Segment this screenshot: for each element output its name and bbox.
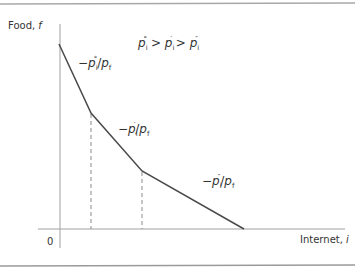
slope-label-1: −pi°/pf: [78, 56, 111, 70]
slope-label-2: −pi′/pf: [118, 122, 149, 136]
slope-label-3: −pi″/pf: [202, 174, 234, 188]
x-axis-label: Internet, i: [300, 234, 349, 245]
price-inequality: pi° > pi′ > pi″: [138, 36, 198, 50]
origin-label: 0: [47, 236, 53, 247]
bottom-border: [0, 265, 355, 266]
budget-curve: [59, 44, 244, 229]
top-border: [0, 3, 355, 4]
y-axis-label: Food, f: [8, 20, 42, 31]
